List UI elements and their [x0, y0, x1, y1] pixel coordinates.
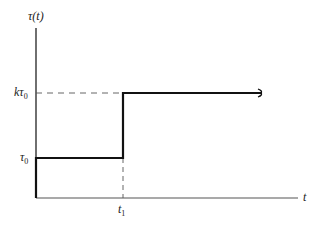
k-tau0-label-sub: 0: [24, 92, 28, 101]
t1-label: t1: [118, 203, 125, 218]
tau0-label: τ0: [20, 151, 28, 166]
k-tau0-label: kτ0: [14, 86, 28, 101]
tau0-label-sub: 0: [24, 157, 28, 166]
k-tau0-label-main: kτ: [14, 85, 24, 99]
step-function-diagram: [0, 0, 318, 226]
x-axis-label: t: [303, 191, 306, 203]
step-function-curve: [36, 93, 262, 198]
y-axis-label: τ(t): [28, 10, 44, 22]
t1-label-sub: 1: [121, 209, 125, 218]
